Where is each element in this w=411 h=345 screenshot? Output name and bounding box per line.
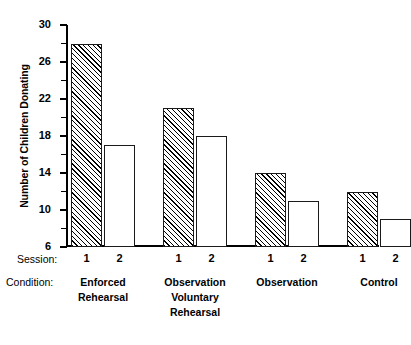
session-mark: 1 <box>83 252 89 264</box>
y-tick-minor <box>61 117 66 118</box>
y-tick-major: 30 <box>60 24 67 25</box>
bar <box>288 201 319 247</box>
session-mark: 2 <box>208 252 214 264</box>
bar <box>380 219 411 247</box>
session-mark: 2 <box>300 252 306 264</box>
session-mark: 2 <box>116 252 122 264</box>
session-mark: 2 <box>392 252 398 264</box>
condition-label: Observation <box>256 275 317 290</box>
bar <box>163 108 194 247</box>
bar <box>196 136 227 247</box>
y-tick-major: 6 <box>60 246 67 247</box>
y-tick-major: 10 <box>60 209 67 210</box>
y-tick-major: 26 <box>60 61 67 62</box>
y-tick-label: 10 <box>39 204 51 215</box>
bar <box>347 192 378 248</box>
session-mark: 1 <box>359 252 365 264</box>
y-tick-label: 22 <box>39 93 51 104</box>
y-tick-minor <box>61 191 66 192</box>
condition-label: Control <box>360 275 397 290</box>
y-axis-title: Number of Children Donating <box>18 26 30 246</box>
y-tick-major: 22 <box>60 98 67 99</box>
y-tick-label: 26 <box>39 56 51 67</box>
y-tick-label: 30 <box>39 19 51 30</box>
condition-label: Enforced Rehearsal <box>78 275 128 305</box>
y-tick-minor <box>61 43 66 44</box>
session-mark: 1 <box>175 252 181 264</box>
y-tick-label: 14 <box>39 167 51 178</box>
y-tick-minor <box>61 154 66 155</box>
session-axis-row: Session: 12121212 <box>0 252 391 268</box>
condition-row-title: Condition: <box>6 276 53 288</box>
y-tick-label: 6 <box>45 241 51 252</box>
y-tick-label: 18 <box>39 130 51 141</box>
condition-label: Observation Voluntary Rehearsal <box>164 275 225 320</box>
bar <box>71 44 102 248</box>
plot-area: 6101418222630 <box>66 25 379 247</box>
bar <box>255 173 286 247</box>
bar <box>104 145 135 247</box>
session-row-title: Session: <box>17 253 57 265</box>
y-tick-major: 14 <box>60 172 67 173</box>
y-tick-minor <box>61 228 66 229</box>
session-mark: 1 <box>267 252 273 264</box>
y-tick-minor <box>61 80 66 81</box>
y-tick-major: 18 <box>60 135 67 136</box>
